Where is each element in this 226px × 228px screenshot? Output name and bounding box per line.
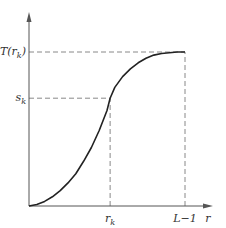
- transform-chart: T(rk)skrkL−1r: [0, 0, 226, 228]
- x-tick-label: rk: [105, 212, 115, 227]
- x-axis-arrow: [203, 204, 213, 209]
- transform-curve: [29, 52, 185, 206]
- curve-layer: [29, 52, 185, 206]
- x-axis-label: r: [205, 212, 211, 225]
- labels: T(rk)skrkL−1r: [0, 45, 211, 227]
- y-tick-label: T(rk): [0, 45, 26, 60]
- guide-lines: [29, 52, 185, 206]
- y-tick-label: sk: [15, 91, 26, 106]
- x-tick-label: L−1: [172, 212, 197, 225]
- y-axis-arrow: [27, 12, 32, 22]
